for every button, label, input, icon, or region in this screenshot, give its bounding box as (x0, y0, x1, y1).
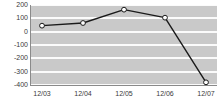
plot-area (31, 5, 217, 85)
gridline (31, 57, 217, 59)
gridline (31, 17, 217, 19)
x-tick-label: 12/04 (63, 90, 103, 98)
y-tick-label: 100 (0, 14, 28, 21)
gridline (31, 5, 217, 6)
y-tick-label: -100 (0, 41, 28, 48)
x-tick-label: 12/07 (186, 90, 220, 98)
x-tick-label: 12/03 (22, 90, 62, 98)
y-axis-line (30, 5, 31, 85)
line-chart: 2001000-100-200-300-400 12/0312/0412/051… (0, 0, 220, 108)
y-tick-label: -200 (0, 54, 28, 61)
y-tick-label: 200 (0, 1, 28, 8)
gridline (31, 44, 217, 46)
y-tick-label: 0 (0, 28, 28, 35)
gridline (31, 31, 217, 33)
y-tick-label: -400 (0, 81, 28, 88)
x-axis-line (30, 85, 217, 86)
x-tick-label: 12/06 (145, 90, 185, 98)
gridline (31, 71, 217, 73)
y-tick-label: -300 (0, 68, 28, 75)
x-tick-label: 12/05 (104, 90, 144, 98)
